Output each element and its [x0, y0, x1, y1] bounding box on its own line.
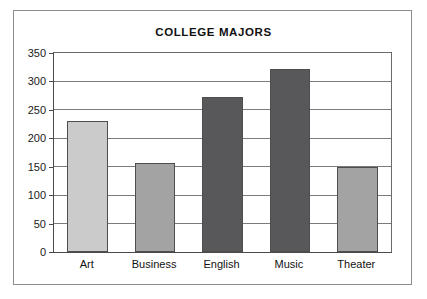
- y-tick-label: 0: [40, 246, 46, 258]
- bar-music: [270, 69, 310, 252]
- x-tick-label-theater: Theater: [337, 258, 375, 270]
- x-tick-label-business: Business: [132, 258, 177, 270]
- x-tick-label-art: Art: [80, 258, 94, 270]
- bar-business: [135, 163, 175, 252]
- x-tick-label-english: English: [203, 258, 239, 270]
- y-tick-label: 300: [28, 75, 46, 87]
- y-tick-label: 350: [28, 47, 46, 59]
- bar-theater: [337, 167, 377, 252]
- y-tick-mark: [49, 252, 54, 253]
- bar-art: [67, 121, 107, 252]
- bar-series: [54, 53, 391, 252]
- x-tick-label-music: Music: [275, 258, 304, 270]
- chart-title: COLLEGE MAJORS: [0, 26, 427, 38]
- y-tick-label: 50: [34, 218, 46, 230]
- y-tick-label: 200: [28, 132, 46, 144]
- y-tick-label: 100: [28, 189, 46, 201]
- y-tick-label: 150: [28, 161, 46, 173]
- bar-english: [202, 97, 242, 252]
- chart-figure: COLLEGE MAJORS 050100150200250300350 Art…: [0, 0, 427, 299]
- y-tick-label: 250: [28, 104, 46, 116]
- plot-area: 050100150200250300350: [53, 52, 392, 253]
